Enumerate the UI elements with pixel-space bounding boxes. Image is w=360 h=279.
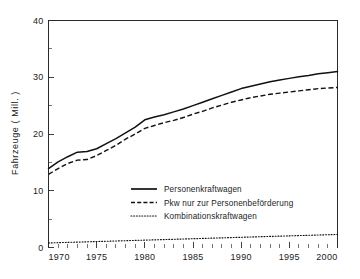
x-tick-label: 1970	[49, 252, 70, 262]
chart-background	[0, 0, 360, 279]
legend-label: Pkw nur zur Personenbeförderung	[164, 199, 294, 208]
line-chart-canvas: 010203040 1970197519801985199019952000 P…	[0, 0, 360, 279]
y-tick-label: 20	[33, 129, 44, 139]
x-tick-label: 1990	[231, 252, 252, 262]
y-tick-label: 40	[33, 16, 44, 26]
y-tick-label: 0	[38, 243, 43, 253]
y-axis-title: Fahrzeuge ( Mill. )	[10, 91, 20, 175]
x-tick-label: 1980	[134, 252, 155, 262]
legend-label: Kombinationskraftwagen	[164, 212, 257, 221]
x-tick-label: 1975	[86, 252, 107, 262]
y-tick-label: 10	[33, 186, 44, 196]
x-tick-label: 2000	[316, 252, 337, 262]
legend-label: Personenkraftwagen	[164, 185, 242, 194]
x-tick-label: 1995	[279, 252, 300, 262]
chart-figure: 010203040 1970197519801985199019952000 P…	[0, 0, 360, 279]
y-tick-label: 30	[33, 72, 44, 82]
x-tick-label: 1985	[182, 252, 203, 262]
